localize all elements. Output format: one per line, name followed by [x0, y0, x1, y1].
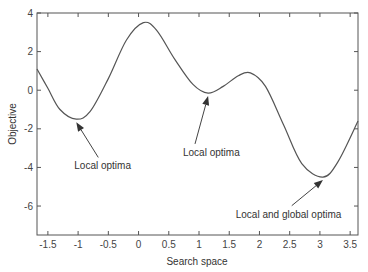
y-tick-label: 0 — [27, 85, 33, 96]
x-tick-label: 2 — [257, 239, 263, 250]
x-tick-label: 1.5 — [222, 239, 236, 250]
y-tick-label: -2 — [24, 123, 33, 134]
x-tick-label: -0.5 — [100, 239, 118, 250]
y-tick-label: 2 — [27, 46, 33, 57]
chart: -1.5-1-0.500.511.522.533.5 420-2-4-6 Loc… — [0, 0, 368, 272]
x-tick-label: -1.5 — [39, 239, 57, 250]
x-tick-label: 2.5 — [283, 239, 297, 250]
annotation-label: Local and global optima — [236, 209, 342, 220]
x-tick-label: 0 — [136, 239, 142, 250]
plot-area — [37, 13, 358, 235]
annotation-label: Local optima — [183, 147, 240, 158]
y-tick-label: 4 — [27, 8, 33, 19]
y-axis-label: Objective — [7, 103, 18, 145]
x-axis-label: Search space — [166, 256, 228, 267]
x-tick-label: -1 — [74, 239, 83, 250]
x-tick-label: 3 — [317, 239, 323, 250]
annotation-label: Local optima — [74, 160, 131, 171]
x-tick-label: 0.5 — [162, 239, 176, 250]
y-tick-label: -4 — [24, 162, 33, 173]
x-tick-label: 1 — [196, 239, 202, 250]
x-tick-label: 3.5 — [343, 239, 357, 250]
y-tick-label: -6 — [24, 201, 33, 212]
